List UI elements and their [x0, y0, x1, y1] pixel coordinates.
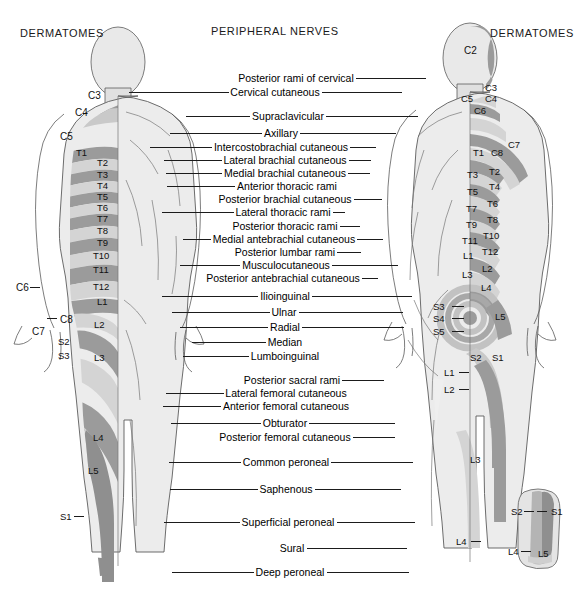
leader-tick	[47, 318, 57, 319]
dermatome-label: T10	[93, 251, 109, 261]
dermatome-label: T12	[482, 247, 498, 257]
dermatome-label: S1	[60, 512, 72, 522]
leader-line-right	[333, 212, 345, 213]
nerve-label-row: Ilioinguinal	[0, 290, 581, 303]
dermatome-label: C5	[60, 132, 73, 142]
leader-tick	[452, 331, 464, 332]
leader-tick	[521, 551, 531, 552]
leader-tick	[30, 287, 40, 288]
leader-tick	[471, 541, 481, 542]
dermatome-label: T5	[467, 187, 478, 197]
leader-line-right	[340, 226, 360, 227]
nerve-label-text: Ulnar	[269, 306, 298, 319]
dermatome-label: C4	[75, 108, 88, 118]
dermatome-label: S4	[433, 314, 445, 324]
leader-line-right	[326, 116, 418, 117]
header-left: DERMATOMES	[20, 27, 104, 39]
dermatome-label: C2	[464, 46, 477, 56]
leader-line-right	[337, 522, 415, 523]
leader-line-left	[162, 212, 234, 213]
leader-line-left	[162, 296, 258, 297]
leader-line-left	[150, 147, 212, 148]
nerve-label-row: Posterior sacral rami	[0, 374, 581, 387]
dermatome-label: T2	[97, 158, 108, 168]
leader-line-right	[309, 423, 395, 424]
dermatome-label: S5	[433, 327, 445, 337]
dermatome-label: C3	[88, 91, 101, 101]
nerve-label-text: Medial antebrachial cutaneous	[211, 233, 357, 246]
dermatome-label: L1	[463, 251, 474, 261]
dermatome-label: T2	[489, 167, 500, 177]
leader-line-left	[180, 265, 240, 266]
dermatome-label: L3	[94, 353, 105, 363]
nerve-label-text: Sural	[278, 542, 307, 555]
nerve-label-row: Anterior femoral cutaneous	[0, 400, 581, 413]
leader-line-right	[331, 462, 413, 463]
dermatome-label: C8	[491, 148, 503, 158]
dermatome-label: C7	[32, 327, 45, 337]
dermatome-label: T4	[489, 182, 500, 192]
nerve-label-text: Radial	[268, 321, 302, 334]
leader-line-left	[192, 342, 266, 343]
leader-line-left	[166, 393, 224, 394]
dermatome-label: S3	[58, 351, 70, 361]
dermatome-label: L3	[470, 455, 481, 465]
leader-line-right	[307, 548, 407, 549]
nerve-label-text: Cervical cutaneous	[228, 86, 321, 99]
leader-line-right	[350, 147, 376, 148]
dermatome-label: L2	[94, 320, 105, 330]
nerve-label-text: Intercostobrachial cutaneous	[212, 141, 350, 154]
nerve-label-row: Median	[0, 336, 581, 349]
dermatome-label: T6	[97, 203, 108, 213]
leader-line-left	[167, 186, 235, 187]
leader-line-right	[337, 252, 361, 253]
dermatome-label: L2	[444, 385, 455, 395]
dermatome-label: C5	[461, 94, 473, 104]
dermatome-label: T4	[97, 181, 108, 191]
dermatome-label: S3	[433, 302, 445, 312]
dermatome-label: T1	[76, 148, 87, 158]
dermatome-label: T3	[467, 170, 478, 180]
leader-line-left	[186, 116, 250, 117]
leader-line-right	[302, 327, 404, 328]
dermatome-label: T9	[97, 238, 108, 248]
dermatome-label: T9	[466, 220, 477, 230]
leader-line-right	[357, 239, 383, 240]
leader-line-left	[163, 406, 221, 407]
dermatome-label: S1	[551, 507, 563, 517]
leader-line-right	[348, 173, 370, 174]
dermatome-label: T11	[462, 236, 478, 246]
dermatome-label: T5	[97, 192, 108, 202]
nerve-label-text: Posterior lumbar rami	[233, 246, 337, 259]
dermatome-label: C4	[485, 94, 497, 104]
leader-tick	[459, 372, 469, 373]
leader-line-left	[170, 489, 258, 490]
dermatome-label: L1	[97, 297, 108, 307]
leader-line-right	[299, 312, 403, 313]
leader-tick	[459, 389, 469, 390]
leader-line-right	[300, 133, 396, 134]
dermatome-label: L1	[444, 368, 455, 378]
leader-line-left	[129, 92, 229, 93]
dermatome-label: T6	[487, 199, 498, 209]
nerve-label-text: Saphenous	[257, 483, 314, 496]
leader-line-right	[327, 572, 409, 573]
nerve-label-text: Common peroneal	[241, 456, 331, 469]
nerve-label-text: Axillary	[262, 127, 300, 140]
dermatome-peripheral-nerve-diagram: DERMATOMES PERIPHERAL NERVES DERMATOMES …	[0, 0, 581, 592]
dermatome-label: L3	[462, 270, 473, 280]
dermatome-label: S2	[58, 337, 70, 347]
nerve-label-text: Superficial peroneal	[240, 516, 337, 529]
nerve-label-row: Lateral femoral cutaneous	[0, 387, 581, 400]
leader-line-left	[164, 160, 222, 161]
dermatome-label: S1	[492, 353, 504, 363]
leader-line-left	[172, 572, 254, 573]
dermatome-label: L4	[456, 537, 467, 547]
nerve-label-text: Anterior femoral cutaneous	[221, 400, 351, 413]
nerve-label-text: Supraclavicular	[250, 110, 326, 123]
nerve-label-text: Posterior thoracic rami	[230, 220, 339, 233]
dermatome-label: C6	[16, 283, 29, 293]
leader-line-left	[170, 133, 262, 134]
nerve-label-text: Lateral brachial cutaneous	[221, 154, 348, 167]
nerve-label-row: Musculocutaneous	[0, 259, 581, 272]
